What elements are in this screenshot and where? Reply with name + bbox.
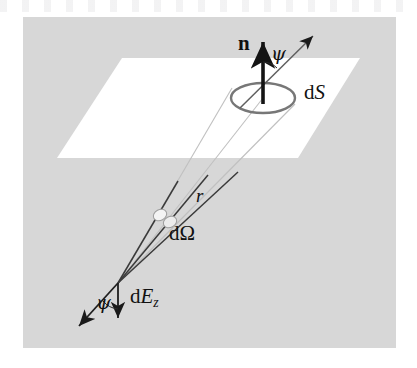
label-dS-S: S	[315, 80, 326, 104]
label-dOmega-symbol: Ω	[180, 221, 196, 245]
label-psi-bottom: ψ	[96, 293, 111, 312]
label-dOmega: dΩ	[169, 223, 195, 244]
label-dOmega-d: d	[169, 221, 180, 245]
label-dEz-d: d	[130, 284, 141, 308]
label-dS: dS	[304, 82, 325, 103]
label-dEz-E: E	[141, 284, 154, 308]
diagram-svg	[0, 0, 417, 368]
label-dEz-subscript: z	[153, 295, 158, 310]
label-normal-vector: n	[238, 33, 250, 54]
label-psi-top: ψ	[271, 44, 286, 63]
figure-canvas: n ψ dS r dΩ ψ dEz	[0, 0, 417, 368]
label-r: r	[196, 186, 203, 205]
label-dEz: dEz	[130, 286, 159, 310]
label-dS-d: d	[304, 80, 315, 104]
